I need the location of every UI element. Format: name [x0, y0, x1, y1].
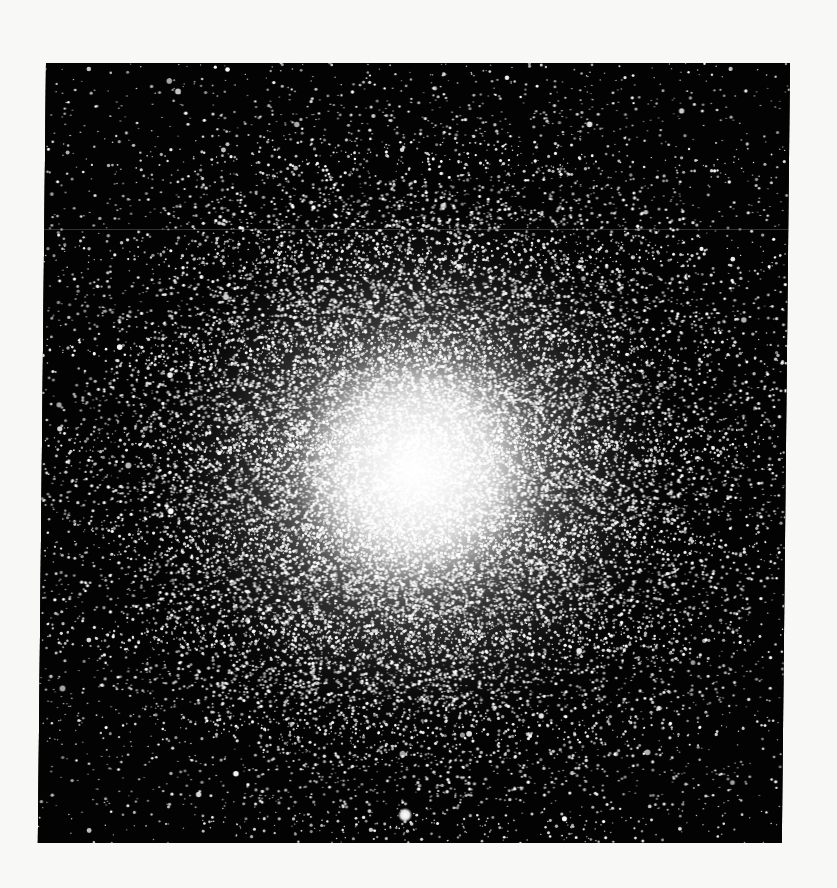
page-background: [0, 0, 837, 888]
star-cluster-photo: [38, 63, 790, 843]
star-field-canvas: [38, 63, 790, 843]
scan-artifact-line: [44, 229, 788, 230]
